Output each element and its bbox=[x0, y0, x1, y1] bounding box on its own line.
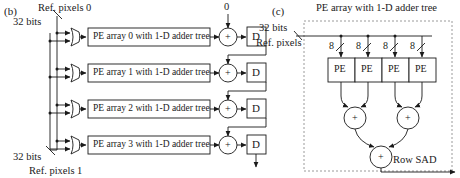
addl1b-to-l2 bbox=[389, 129, 408, 147]
figure-root: (b) Ref. pixels 0 32 bits 32 bits Ref. p… bbox=[0, 0, 460, 178]
bus-label-top: 32 bits bbox=[13, 17, 41, 28]
mux-row-0 bbox=[71, 28, 86, 46]
feedback-2-to-3 bbox=[228, 118, 266, 136]
pe2-to-add-l1b bbox=[395, 82, 402, 107]
ref-pixels-1-label: Ref. pixels 1 bbox=[29, 166, 82, 177]
pe-cell-label-0: PE bbox=[334, 64, 346, 74]
pe-array-label-3: PE array 3 with 1-D adder tree bbox=[93, 140, 210, 150]
feedback-1-to-2 bbox=[228, 82, 266, 100]
addl1a-to-l2 bbox=[355, 129, 374, 147]
adder-l1-label-1: + bbox=[405, 113, 411, 123]
pe0-to-add-l1a bbox=[341, 82, 348, 107]
pe-cell-label-1: PE bbox=[361, 64, 373, 74]
panel-c-signal-label: Ref. pixels bbox=[256, 38, 302, 49]
pe-array-label-2: PE array 2 with 1-D adder tree bbox=[93, 104, 210, 114]
reg-label-2: D bbox=[252, 103, 260, 114]
feedback-0-to-1 bbox=[228, 46, 266, 64]
bus-label-bottom: 32 bits bbox=[13, 152, 41, 163]
ref-pixels-0-label: Ref. pixels 0 bbox=[38, 3, 91, 14]
pe1-to-add-l1a bbox=[361, 82, 368, 107]
pe-array-label-0: PE array 0 with 1-D adder tree bbox=[93, 32, 210, 42]
tap-width-0: 8 bbox=[329, 41, 334, 51]
width-tick-3 bbox=[417, 43, 425, 51]
tap-width-1: 8 bbox=[356, 41, 361, 51]
pe3-to-add-l1b bbox=[415, 82, 422, 107]
width-tick-2 bbox=[390, 43, 398, 51]
reg-label-1: D bbox=[252, 67, 260, 78]
adder-label-1: + bbox=[225, 68, 231, 78]
pe-array-label-1: PE array 1 with 1-D adder tree bbox=[93, 68, 210, 78]
adder-label-0: + bbox=[225, 32, 231, 42]
pe-cell-label-2: PE bbox=[388, 64, 400, 74]
panel-c-title: PE array with 1-D adder tree bbox=[316, 3, 437, 14]
panel-c-wiring bbox=[294, 21, 455, 172]
reg-label-3: D bbox=[252, 139, 260, 150]
adder-label-2: + bbox=[225, 104, 231, 114]
adder-l1-label-0: + bbox=[352, 113, 358, 123]
panel-c-tag: (c) bbox=[272, 6, 284, 17]
tap-width-2: 8 bbox=[383, 41, 388, 51]
row-sad-label: Row SAD bbox=[393, 155, 436, 166]
figure-svg bbox=[0, 0, 460, 178]
width-tick-1 bbox=[363, 43, 371, 51]
adder-label-3: + bbox=[225, 140, 231, 150]
bus-tick-bottom bbox=[46, 146, 55, 155]
mux-row-3 bbox=[71, 136, 86, 154]
width-tick-0 bbox=[336, 43, 344, 51]
panel-c-bus-label: 32 bits bbox=[259, 23, 287, 34]
const-zero-label: 0 bbox=[224, 2, 229, 13]
pe-cell-label-3: PE bbox=[415, 64, 427, 74]
adder-l2-label: + bbox=[378, 152, 384, 162]
tap-width-3: 8 bbox=[410, 41, 415, 51]
mux-row-1 bbox=[71, 64, 86, 82]
mux-row-2 bbox=[71, 100, 86, 118]
